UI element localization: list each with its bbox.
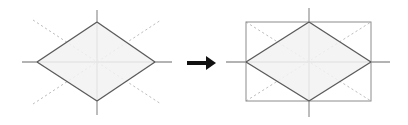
figure-root bbox=[0, 0, 408, 125]
figure-canvas bbox=[0, 0, 408, 125]
